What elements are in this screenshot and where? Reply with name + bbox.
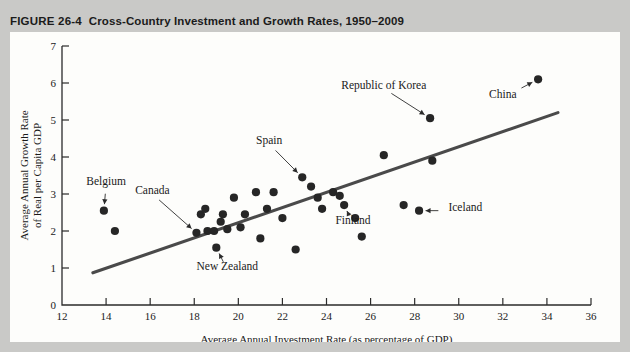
x-tick-label: 22 bbox=[277, 310, 288, 322]
x-tick-label: 18 bbox=[189, 310, 201, 322]
data-point bbox=[415, 207, 423, 215]
data-point bbox=[318, 205, 326, 213]
data-point bbox=[314, 194, 322, 202]
data-point bbox=[263, 205, 271, 213]
data-point bbox=[252, 188, 260, 196]
axis-lines bbox=[62, 46, 591, 305]
point-label: Canada bbox=[135, 184, 169, 196]
data-point bbox=[100, 207, 108, 215]
y-axis-title-line-2: of Real per Capita GDP bbox=[31, 123, 43, 228]
data-point bbox=[212, 244, 220, 252]
data-point bbox=[292, 245, 300, 253]
point-label: Spain bbox=[256, 134, 282, 147]
y-tick-label: 5 bbox=[51, 114, 57, 126]
point-annotation: Finland bbox=[335, 211, 370, 226]
data-point bbox=[358, 232, 366, 240]
figure-container: FIGURE 26-4 Cross-Country Investment and… bbox=[0, 0, 630, 352]
data-point bbox=[270, 188, 278, 196]
y-tick-label: 6 bbox=[51, 77, 57, 89]
point-label: China bbox=[489, 88, 516, 100]
x-tick-label: 30 bbox=[453, 310, 465, 322]
data-point bbox=[380, 151, 388, 159]
figure-title-bar: FIGURE 26-4 Cross-Country Investment and… bbox=[10, 10, 620, 32]
x-tick-label: 24 bbox=[321, 310, 333, 322]
data-point bbox=[210, 227, 218, 235]
y-axis-title-line-1: Average Annual Growth Rate bbox=[18, 110, 30, 240]
point-annotation: Iceland bbox=[426, 201, 483, 214]
annotations-layer: BelgiumCanadaNew ZealandSpainRepublic of… bbox=[86, 79, 532, 272]
y-tick-label: 3 bbox=[51, 188, 57, 200]
data-point bbox=[236, 223, 244, 231]
point-label: New Zealand bbox=[197, 260, 259, 272]
x-tick-label: 20 bbox=[233, 310, 245, 322]
data-point bbox=[256, 234, 264, 242]
data-point bbox=[219, 210, 227, 218]
leader-line bbox=[391, 93, 424, 114]
data-point bbox=[217, 218, 225, 226]
data-point bbox=[307, 183, 315, 191]
x-tick-label: 26 bbox=[365, 310, 377, 322]
point-annotation: New Zealand bbox=[197, 253, 259, 271]
point-annotation: Belgium bbox=[86, 175, 126, 204]
axis-titles-layer: Average Annual Investment Rate (as perce… bbox=[18, 110, 453, 342]
data-point bbox=[336, 192, 344, 200]
point-annotation: Republic of Korea bbox=[341, 79, 426, 115]
data-point bbox=[241, 210, 249, 218]
x-tick-label: 12 bbox=[57, 310, 68, 322]
data-point bbox=[223, 225, 231, 233]
x-tick-label: 16 bbox=[145, 310, 157, 322]
data-point bbox=[534, 75, 542, 83]
x-tick-label: 32 bbox=[497, 310, 508, 322]
axes-layer: 0123456712141618202224262830323436 bbox=[51, 40, 598, 322]
x-axis-title: Average Annual Investment Rate (as perce… bbox=[201, 333, 453, 342]
figure-caption: Cross-Country Investment and Growth Rate… bbox=[89, 15, 404, 27]
y-tick-label: 2 bbox=[51, 225, 57, 237]
y-tick-label: 1 bbox=[51, 262, 57, 274]
x-tick-label: 36 bbox=[586, 310, 598, 322]
data-point bbox=[230, 194, 238, 202]
point-annotation: China bbox=[489, 82, 532, 99]
x-tick-label: 14 bbox=[101, 310, 113, 322]
data-point bbox=[278, 214, 286, 222]
point-label: Republic of Korea bbox=[341, 79, 426, 92]
leader-line bbox=[159, 200, 191, 229]
data-point bbox=[201, 205, 209, 213]
point-label: Finland bbox=[335, 214, 370, 226]
data-point bbox=[400, 201, 408, 209]
data-point bbox=[298, 173, 306, 181]
y-tick-label: 4 bbox=[51, 151, 57, 163]
data-point bbox=[111, 227, 119, 235]
data-points-layer bbox=[100, 75, 542, 253]
leader-arrowhead bbox=[426, 208, 431, 213]
data-point bbox=[428, 157, 436, 165]
point-annotation: Canada bbox=[135, 184, 191, 229]
plot-area-card: 0123456712141618202224262830323436 Belgi… bbox=[10, 32, 620, 342]
x-tick-label: 28 bbox=[409, 310, 421, 322]
data-point bbox=[192, 229, 200, 237]
data-point bbox=[426, 114, 434, 122]
leader-arrowhead bbox=[102, 199, 107, 204]
scatter-chart: 0123456712141618202224262830323436 Belgi… bbox=[10, 32, 620, 342]
point-label: Iceland bbox=[448, 201, 482, 213]
point-annotation: Spain bbox=[256, 134, 298, 173]
y-tick-label: 7 bbox=[51, 40, 57, 52]
leader-arrowhead bbox=[419, 110, 425, 115]
data-point bbox=[340, 201, 348, 209]
figure-number: FIGURE 26-4 bbox=[10, 15, 82, 27]
point-label: Belgium bbox=[86, 175, 126, 188]
x-tick-label: 34 bbox=[541, 310, 553, 322]
